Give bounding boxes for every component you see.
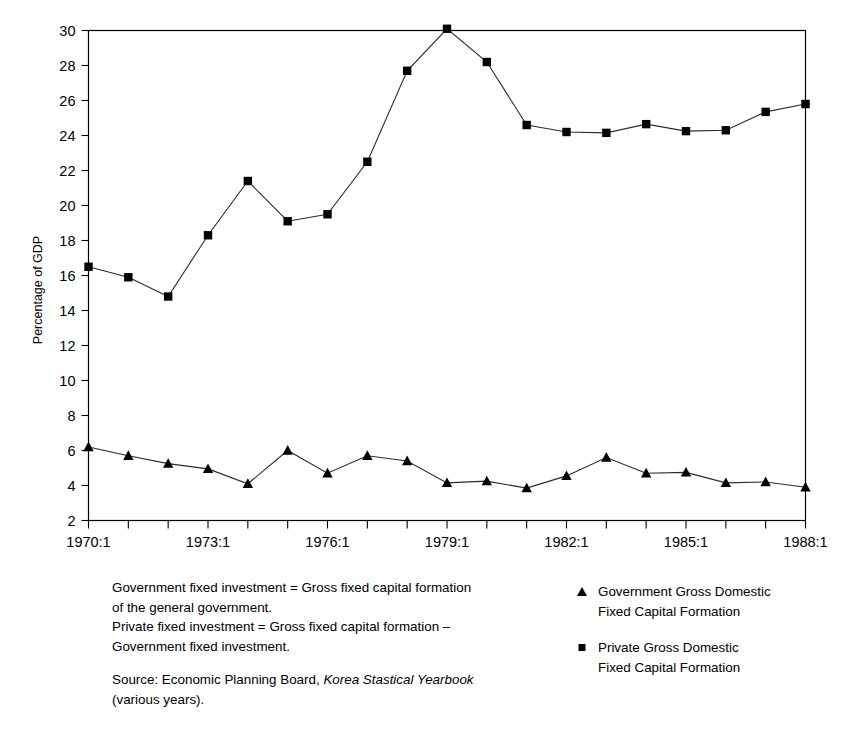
x-tick-label: 1979:1 [425, 534, 469, 550]
y-tick-label: 2 [67, 513, 75, 529]
footnote-block: Government fixed investment = Gross fixe… [112, 578, 512, 710]
data-point-triangle [561, 470, 571, 480]
data-point-square [801, 100, 809, 108]
y-tick-label: 16 [59, 268, 75, 284]
x-tick-label: 1970:1 [66, 534, 110, 550]
y-tick-label: 4 [67, 478, 75, 494]
series-government [83, 442, 810, 493]
y-axis-title-text: Percentage of GDP [31, 236, 45, 344]
data-point-triangle [482, 476, 492, 486]
data-point-square [403, 67, 411, 75]
data-point-triangle [681, 467, 691, 477]
data-point-triangle [362, 450, 372, 460]
y-tick-label: 28 [59, 58, 75, 74]
data-point-square [483, 58, 491, 66]
x-tick-label: 1985:1 [664, 534, 708, 550]
legend-private-line-1: Private Gross Domestic [598, 640, 739, 655]
legend-government-line-2: Fixed Capital Formation [598, 604, 740, 619]
data-point-square [761, 108, 769, 116]
y-tick-label: 30 [59, 23, 75, 39]
triangle-marker-icon [576, 582, 598, 597]
y-tick-label: 6 [67, 443, 75, 459]
definition-line-4: Government fixed investment. [112, 639, 290, 654]
x-tick-label: 1982:1 [544, 534, 588, 550]
x-tick-label: 1988:1 [783, 534, 827, 550]
legend-label-private: Private Gross Domestic Fixed Capital For… [598, 638, 740, 677]
data-point-square [164, 292, 172, 300]
source-suffix: (various years). [112, 692, 204, 707]
data-point-triangle [601, 452, 611, 462]
definition-line-1: Government fixed investment = Gross fixe… [112, 580, 471, 595]
x-tick-label: 1976:1 [305, 534, 349, 550]
y-tick-label: 26 [59, 93, 75, 109]
y-tick-label: 14 [59, 303, 75, 319]
definition-note: Government fixed investment = Gross fixe… [112, 578, 512, 656]
data-point-triangle [243, 478, 253, 488]
data-point-square [443, 25, 451, 33]
data-point-square [682, 127, 690, 135]
y-axis-title: Percentage of GDP [31, 236, 45, 344]
legend-label-government: Government Gross Domestic Fixed Capital … [598, 582, 771, 621]
legend-government-line-1: Government Gross Domestic [598, 584, 771, 599]
data-point-square [602, 129, 610, 137]
y-tick-label: 20 [59, 198, 75, 214]
source-note: Source: Economic Planning Board, Korea S… [112, 670, 512, 709]
data-point-square [363, 158, 371, 166]
series-line [89, 29, 806, 297]
data-series-group [83, 25, 810, 493]
series-private [84, 25, 809, 301]
y-tick-label: 18 [59, 233, 75, 249]
definition-line-2: of the general government. [112, 600, 272, 615]
legend-item-government: Government Gross Domestic Fixed Capital … [576, 582, 846, 621]
y-tick-label: 24 [59, 128, 75, 144]
source-prefix: Source: Economic Planning Board, [112, 672, 323, 687]
data-point-square [244, 177, 252, 185]
y-tick-label: 12 [59, 338, 75, 354]
data-point-triangle [760, 477, 770, 487]
source-publication-title: Korea Stastical Yearbook [323, 672, 473, 687]
line-chart-svg: Percentage of GDP 2468101214161820222426… [0, 0, 852, 565]
square-marker-icon [576, 638, 598, 653]
x-tick-label: 1973:1 [186, 534, 230, 550]
chart-plot-area: Percentage of GDP 2468101214161820222426… [0, 0, 852, 565]
legend-item-private: Private Gross Domestic Fixed Capital For… [576, 638, 846, 677]
data-point-triangle [83, 442, 93, 452]
data-point-square [722, 126, 730, 134]
data-point-square [522, 121, 530, 129]
x-axis-ticks: 1970:11973:11976:11979:11982:11985:11988… [66, 521, 827, 550]
data-point-square [124, 273, 132, 281]
data-point-square [562, 128, 570, 136]
definition-line-3: Private fixed investment = Gross fixed c… [112, 619, 450, 634]
data-point-square [283, 217, 291, 225]
data-point-square [204, 231, 212, 239]
y-tick-label: 8 [67, 408, 75, 424]
legend-private-line-2: Fixed Capital Formation [598, 660, 740, 675]
chart-legend: Government Gross Domestic Fixed Capital … [576, 582, 846, 694]
y-tick-label: 10 [59, 373, 75, 389]
figure: Percentage of GDP 2468101214161820222426… [0, 0, 852, 745]
data-point-square [84, 263, 92, 271]
data-point-square [323, 210, 331, 218]
data-point-square [642, 120, 650, 128]
data-point-triangle [322, 468, 332, 478]
y-axis-ticks: 24681012141618202224262830 [59, 23, 88, 529]
data-point-triangle [282, 445, 292, 455]
plot-frame [89, 31, 806, 521]
y-tick-label: 22 [59, 163, 75, 179]
